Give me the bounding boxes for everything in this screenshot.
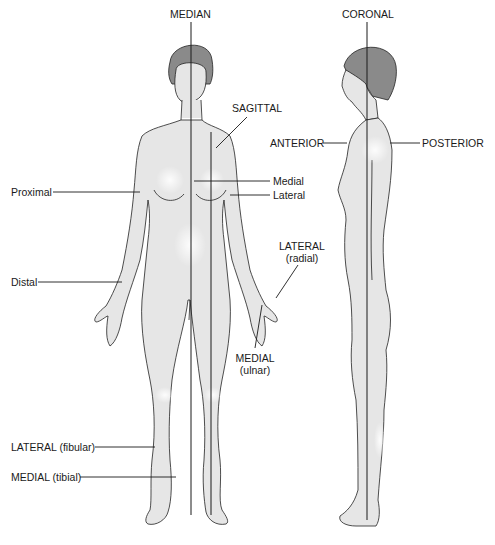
label-medial-ulnar: MEDIAL (ulnar) <box>232 352 278 376</box>
front-figure <box>95 45 278 524</box>
label-lateral-fibular: LATERAL (fibular) <box>11 441 95 453</box>
label-sagittal: SAGITTAL <box>232 102 282 114</box>
anatomy-diagram <box>0 0 495 545</box>
label-proximal: Proximal <box>11 186 52 198</box>
label-medial-tibial: MEDIAL (tibial) <box>11 471 81 483</box>
label-medial-ulnar-line1: MEDIAL <box>232 352 278 364</box>
label-medial: Medial <box>273 175 304 187</box>
label-medial-ulnar-line2: (ulnar) <box>232 364 278 376</box>
label-lateral-radial: LATERAL (radial) <box>277 240 327 264</box>
side-body <box>338 118 392 526</box>
label-median: MEDIAN <box>170 8 211 20</box>
label-coronal: CORONAL <box>342 8 394 20</box>
label-posterior: POSTERIOR <box>422 137 484 149</box>
label-lateral: Lateral <box>273 189 305 201</box>
label-distal: Distal <box>11 276 37 288</box>
front-head <box>175 63 206 103</box>
label-lateral-radial-line1: LATERAL <box>277 240 327 252</box>
label-lateral-radial-line2: (radial) <box>277 252 327 264</box>
label-anterior: ANTERIOR <box>270 137 324 149</box>
